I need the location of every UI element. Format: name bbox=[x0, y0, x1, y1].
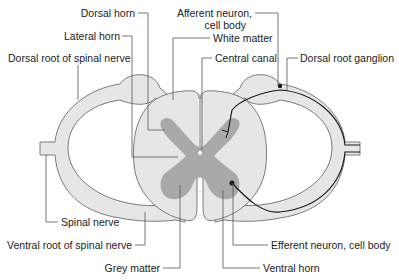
label-afferent-line1: Afferent neuron, bbox=[177, 7, 252, 19]
label-ventral-horn: Ventral horn bbox=[263, 262, 320, 274]
label-white-matter: White matter bbox=[213, 32, 273, 44]
label-spinal-nerve: Spinal nerve bbox=[61, 216, 120, 228]
label-grey-matter: Grey matter bbox=[105, 262, 161, 274]
label-dorsal-root: Dorsal root of spinal nerve bbox=[8, 52, 131, 64]
central-canal bbox=[198, 151, 203, 156]
label-lateral-horn: Lateral horn bbox=[64, 30, 120, 42]
label-central-canal: Central canal bbox=[215, 52, 277, 64]
label-afferent-line2: cell body bbox=[205, 19, 247, 31]
label-dorsal-root-ganglion: Dorsal root ganglion bbox=[300, 52, 394, 64]
label-dorsal-horn: Dorsal horn bbox=[81, 7, 135, 19]
label-ventral-root: Ventral root of spinal nerve bbox=[7, 239, 132, 251]
spinal-cord-diagram: Dorsal horn Lateral horn Dorsal root of … bbox=[0, 0, 399, 280]
afferent-cell-body bbox=[278, 84, 282, 88]
efferent-cell-body bbox=[230, 181, 235, 186]
label-efferent: Efferent neuron, cell body bbox=[271, 239, 391, 251]
